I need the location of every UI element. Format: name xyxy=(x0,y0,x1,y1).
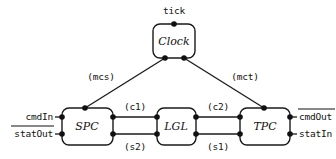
port-spc-mcs[interactable] xyxy=(82,105,88,111)
external-port-label-cmdout: cmdOut xyxy=(299,111,332,122)
port-lgl-s2[interactable] xyxy=(154,131,160,137)
external-port-label-statout: statOut xyxy=(14,128,53,139)
port-tpc-c2[interactable] xyxy=(237,114,243,120)
channel-label-s2: (s2) xyxy=(124,141,146,152)
port-clock-mcs[interactable] xyxy=(162,55,168,61)
port-clock-mct[interactable] xyxy=(181,55,187,61)
port-lgl-s1[interactable] xyxy=(193,131,199,137)
port-tpc-cmdout[interactable] xyxy=(287,114,293,120)
diagram-canvas: Clock SPC LGL TPC (mcs) (mct) (c1) (s2) xyxy=(0,0,336,159)
port-spc-c1[interactable] xyxy=(110,114,116,120)
component-label-clock: Clock xyxy=(158,35,190,48)
external-port-label-cmdin: cmdIn xyxy=(25,111,53,122)
channel-label-mcs: (mcs) xyxy=(87,71,115,82)
port-tpc-s1[interactable] xyxy=(237,131,243,137)
port-spc-cmdin[interactable] xyxy=(59,114,65,120)
external-port-label-tick: tick xyxy=(163,5,186,16)
channel-label-mct: (mct) xyxy=(231,71,259,82)
port-lgl-c2[interactable] xyxy=(193,114,199,120)
port-tpc-statin[interactable] xyxy=(287,131,293,137)
channel-label-s1: (s1) xyxy=(207,141,229,152)
port-spc-s2[interactable] xyxy=(110,131,116,137)
channel-label-c1: (c1) xyxy=(124,101,146,112)
component-connection-diagram: Clock SPC LGL TPC (mcs) (mct) (c1) (s2) xyxy=(0,0,336,159)
component-label-spc: SPC xyxy=(75,120,99,133)
port-lgl-c1[interactable] xyxy=(154,114,160,120)
port-spc-statout[interactable] xyxy=(59,131,65,137)
port-clock-tick[interactable] xyxy=(171,21,177,27)
component-label-lgl: LGL xyxy=(163,120,187,133)
port-tpc-mct[interactable] xyxy=(261,105,267,111)
component-label-tpc: TPC xyxy=(253,120,277,133)
external-port-label-statin: statIn xyxy=(299,128,332,139)
channel-label-c2: (c2) xyxy=(207,101,229,112)
